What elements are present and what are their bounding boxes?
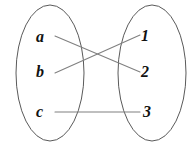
domain-element-c: c bbox=[36, 104, 43, 120]
codomain-element-1: 1 bbox=[141, 28, 149, 44]
left-set-ellipse bbox=[16, 5, 84, 141]
right-set-ellipse bbox=[118, 5, 186, 141]
edge-b-to-1 bbox=[55, 35, 140, 73]
domain-element-a: a bbox=[36, 29, 44, 45]
diagram-canvas bbox=[0, 0, 196, 147]
codomain-element-2: 2 bbox=[141, 64, 149, 80]
set-mapping-diagram: a b c 1 2 3 bbox=[0, 0, 196, 147]
domain-element-b: b bbox=[36, 64, 44, 80]
codomain-element-3: 3 bbox=[143, 104, 151, 120]
